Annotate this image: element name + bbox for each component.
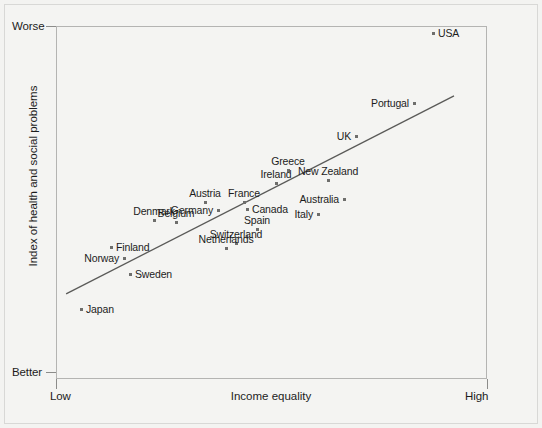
data-point (243, 201, 246, 204)
y-axis-title: Index of health and social problems (27, 76, 39, 276)
y-tick-mark-worse (46, 26, 56, 27)
data-point (80, 308, 83, 311)
data-point-label: Italy (294, 208, 313, 220)
plot-area: USAPortugalUKGreeceNew ZealandIrelandAus… (56, 26, 487, 379)
data-point (225, 247, 228, 250)
data-point-label: UK (337, 130, 351, 142)
data-point (275, 182, 278, 185)
data-point (432, 32, 435, 35)
y-tick-label-worse: Worse (12, 20, 45, 32)
x-tick-mark-low (56, 379, 57, 389)
data-point-label: Australia (299, 193, 339, 205)
x-tick-mark-high (487, 379, 488, 389)
data-point-label: Netherlands (199, 233, 254, 245)
data-point-label: France (228, 187, 260, 199)
y-tick-mark-better (46, 372, 56, 373)
data-point (129, 273, 132, 276)
data-point (123, 257, 126, 260)
chart-page: Worse Better Index of health and social … (0, 0, 542, 428)
x-axis-title: Income equality (0, 390, 542, 402)
data-point-label: New Zealand (298, 165, 358, 177)
data-point-label: Finland (116, 241, 149, 253)
data-point-label: Ireland (260, 168, 291, 180)
data-point-label: Spain (244, 214, 270, 226)
data-point-label: Belgium (158, 207, 195, 219)
data-point-label: Sweden (135, 268, 172, 280)
data-point (110, 246, 113, 249)
data-point (175, 221, 178, 224)
data-point (153, 219, 156, 222)
data-point (413, 102, 416, 105)
data-point (355, 135, 358, 138)
data-point (246, 208, 249, 211)
data-point-label: Norway (84, 252, 119, 264)
data-point (327, 179, 330, 182)
data-point-label: Austria (189, 187, 221, 199)
y-tick-label-better: Better (12, 366, 42, 378)
data-point (343, 198, 346, 201)
data-point-label: Portugal (371, 97, 409, 109)
data-point (217, 209, 220, 212)
data-point (317, 213, 320, 216)
data-point-label: Japan (86, 303, 114, 315)
data-point-label: USA (438, 27, 459, 39)
